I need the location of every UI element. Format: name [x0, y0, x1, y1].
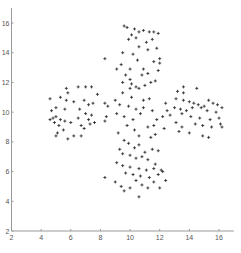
data-point-marker: [201, 124, 204, 127]
data-point-marker: [77, 117, 80, 120]
data-point-marker: [84, 112, 87, 115]
data-point-marker: [152, 30, 155, 33]
data-point-marker: [143, 84, 146, 87]
data-point-marker: [129, 166, 132, 169]
data-point-marker: [192, 102, 195, 105]
data-point-marker: [151, 109, 154, 112]
data-point-marker: [123, 139, 126, 142]
data-point-marker: [133, 128, 136, 131]
data-point-marker: [180, 126, 183, 129]
data-point-marker: [148, 176, 151, 179]
data-point-marker: [185, 109, 188, 112]
data-point-marker: [175, 121, 178, 124]
data-point-marker: [207, 136, 210, 139]
data-point-marker: [84, 85, 87, 88]
data-point-marker: [90, 85, 93, 88]
data-point-marker: [65, 87, 68, 90]
y-tick-label: 12: [2, 79, 10, 86]
y-tick-label: 6: [6, 168, 10, 175]
data-point-marker: [114, 180, 117, 183]
data-point-marker: [129, 78, 132, 81]
data-point-marker: [83, 127, 86, 130]
data-point-marker: [130, 82, 133, 85]
data-point-marker: [151, 38, 154, 41]
data-point-marker: [164, 102, 167, 105]
data-point-marker: [66, 91, 69, 94]
data-point-marker: [194, 123, 197, 126]
data-point-marker: [121, 164, 124, 167]
data-point-marker: [215, 111, 218, 114]
data-point-marker: [200, 106, 203, 109]
data-point-marker: [106, 105, 109, 108]
data-point-marker: [140, 183, 143, 186]
data-point-marker: [182, 91, 185, 94]
data-point-marker: [218, 117, 221, 120]
data-point-marker: [72, 100, 75, 103]
y-tick-label: 16: [2, 20, 10, 27]
data-point-marker: [158, 186, 161, 189]
data-point-marker: [142, 68, 145, 71]
data-point-marker: [89, 123, 92, 126]
data-point-marker: [115, 112, 118, 115]
data-point-marker: [53, 121, 56, 124]
data-point-marker: [103, 176, 106, 179]
data-point-marker: [59, 118, 62, 121]
data-point-marker: [132, 173, 135, 176]
data-point-marker: [135, 108, 138, 111]
data-point-marker: [146, 126, 149, 129]
data-point-marker: [189, 115, 192, 118]
data-point-marker: [140, 74, 143, 77]
data-point-marker: [180, 112, 183, 115]
data-point-marker: [103, 102, 106, 105]
data-point-marker: [146, 158, 149, 161]
data-point-marker: [157, 69, 160, 72]
data-point-marker: [78, 108, 81, 111]
data-point-marker: [72, 134, 75, 137]
data-point-marker: [105, 115, 108, 118]
data-point-marker: [191, 106, 194, 109]
data-point-marker: [130, 33, 133, 36]
data-point-marker: [126, 26, 129, 29]
data-point-marker: [155, 118, 158, 121]
data-point-marker: [129, 186, 132, 189]
data-point-marker: [132, 53, 135, 56]
data-point-marker: [139, 112, 142, 115]
data-point-marker: [158, 57, 161, 60]
data-point-marker: [216, 103, 219, 106]
data-point-marker: [49, 118, 52, 121]
y-tick-label: 8: [6, 138, 10, 145]
data-point-marker: [145, 169, 148, 172]
data-point-marker: [135, 85, 138, 88]
x-tick-label: 8: [98, 234, 102, 241]
data-point-marker: [137, 87, 140, 90]
data-point-marker: [56, 131, 59, 134]
data-point-marker: [146, 48, 149, 51]
data-point-marker: [146, 186, 149, 189]
x-tick-label: 12: [156, 234, 164, 241]
x-tick-label: 10: [126, 234, 134, 241]
data-point-marker: [142, 99, 145, 102]
data-point-marker: [54, 134, 57, 137]
data-point-marker: [115, 68, 118, 71]
x-tick-label: 2: [10, 234, 14, 241]
data-point-marker: [148, 97, 151, 100]
data-point-marker: [166, 109, 169, 112]
data-point-marker: [129, 68, 132, 71]
data-point-marker: [103, 57, 106, 60]
data-point-marker: [63, 120, 66, 123]
data-point-marker: [137, 167, 140, 170]
data-point-marker: [154, 79, 157, 82]
data-point-marker: [136, 59, 139, 62]
y-tick-label: 4: [6, 198, 10, 205]
data-point-marker: [169, 114, 172, 117]
data-point-marker: [103, 120, 106, 123]
data-point-marker: [90, 114, 93, 117]
data-point-marker: [129, 154, 132, 157]
scatter-plot: 246810121416246810121416: [0, 0, 241, 253]
data-point-marker: [143, 151, 146, 154]
data-point-marker: [65, 99, 68, 102]
data-point-marker: [152, 180, 155, 183]
data-point-marker: [201, 134, 204, 137]
data-point-marker: [149, 136, 152, 139]
data-point-marker: [49, 97, 52, 100]
